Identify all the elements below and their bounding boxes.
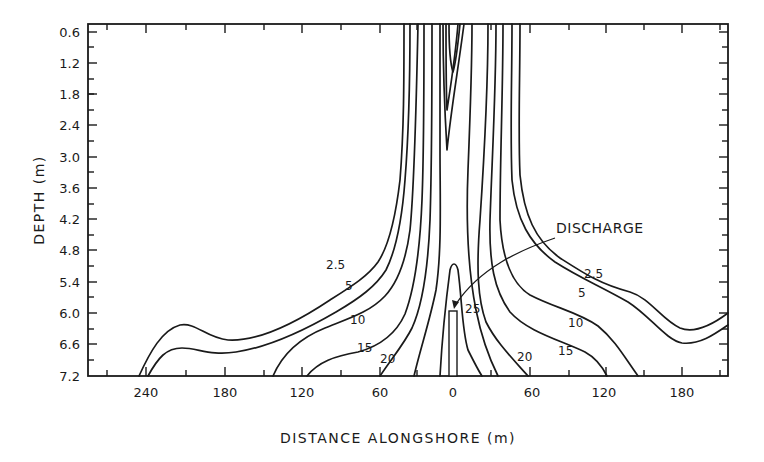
- contour-15: [307, 24, 424, 376]
- y-tick-label: 4.8: [59, 243, 80, 258]
- contour-lines: [139, 24, 728, 376]
- y-tick-label: 3.6: [59, 181, 80, 196]
- y-tick-label: 0.6: [59, 25, 80, 40]
- contour-label: 10: [350, 313, 365, 327]
- contour-label: 2.5: [584, 267, 603, 281]
- y-tick-label: 2.4: [59, 118, 80, 133]
- contour-label: 20: [380, 352, 395, 366]
- discharge-label: DISCHARGE: [556, 220, 644, 236]
- discharge-pipe: [449, 311, 457, 376]
- y-tick-label: 6.6: [59, 337, 80, 352]
- x-axis-ticks-top: [107, 24, 720, 33]
- contour-label: 15: [357, 341, 372, 355]
- contour-label: 25: [465, 302, 480, 316]
- x-tick-label: 60: [372, 385, 389, 400]
- x-axis-title: DISTANCE ALONGSHORE (m): [280, 430, 516, 446]
- y-tick-label: 6.0: [59, 306, 80, 321]
- plot-frame: [88, 24, 728, 376]
- x-tick-label: 0: [449, 385, 457, 400]
- contour-label: 2.5: [326, 258, 345, 272]
- y-tick-labels: 0.6 1.2 1.8 2.4 3.0 3.6 4.2 4.8 5.4 6.0 …: [59, 25, 80, 384]
- contour-10: [273, 24, 418, 376]
- x-tick-labels: 240 180 120 60 0 60 120 180: [134, 385, 695, 400]
- contour-label: 5: [345, 279, 353, 293]
- contour-5: [148, 24, 410, 376]
- x-tick-label: 240: [134, 385, 159, 400]
- y-tick-label: 3.0: [59, 150, 80, 165]
- y-tick-label: 1.8: [59, 87, 80, 102]
- y-axis-title: DEPTH (m): [31, 155, 47, 245]
- x-tick-label: 180: [670, 385, 695, 400]
- y-tick-label: 7.2: [59, 369, 80, 384]
- x-tick-label: 60: [524, 385, 541, 400]
- y-axis-ticks-left: [88, 32, 97, 360]
- x-tick-label: 120: [592, 385, 617, 400]
- x-tick-label: 120: [290, 385, 315, 400]
- contour-chart: 0.6 1.2 1.8 2.4 3.0 3.6 4.2 4.8 5.4 6.0 …: [0, 0, 764, 462]
- y-tick-label: 1.2: [59, 56, 80, 71]
- contour-label: 5: [578, 286, 586, 300]
- contour-label: 15: [558, 344, 573, 358]
- x-tick-label: 180: [213, 385, 238, 400]
- y-tick-label: 4.2: [59, 212, 80, 227]
- contour-label: 20: [517, 350, 532, 364]
- y-tick-label: 5.4: [59, 275, 80, 290]
- contour-label: 10: [568, 316, 583, 330]
- y-axis-ticks-right: [719, 32, 728, 360]
